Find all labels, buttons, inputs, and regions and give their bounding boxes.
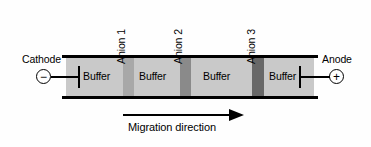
cathode-sign: − <box>37 70 50 83</box>
anion-band-3 <box>252 58 264 98</box>
cathode-label: Cathode <box>22 53 61 65</box>
buffer-label-1: Buffer <box>83 70 110 82</box>
buffer-label-3: Buffer <box>203 70 230 82</box>
anion-label-1: Anion 1 <box>115 29 127 64</box>
cathode-wire <box>51 76 80 78</box>
arrow-right-icon <box>123 114 231 116</box>
minus-circle-icon: − <box>36 69 51 84</box>
anode-electrode-plate <box>299 66 301 88</box>
buffer-label-4: Buffer <box>269 70 296 82</box>
gel-rail-bottom <box>62 96 318 99</box>
anion-label-3: Anion 3 <box>245 29 257 64</box>
anion-band-2 <box>180 58 191 98</box>
electrophoresis-diagram: Buffer Buffer Buffer Buffer Anion 1 Anio… <box>0 0 371 147</box>
arrow-head-icon <box>229 109 244 121</box>
cathode-electrode-plate <box>78 66 80 88</box>
gel-rail-top <box>62 55 318 58</box>
anion-label-2: Anion 2 <box>172 29 184 64</box>
buffer-label-2: Buffer <box>139 70 166 82</box>
anion-band-1 <box>123 58 134 98</box>
anode-wire <box>300 76 330 78</box>
plus-circle-icon: + <box>329 69 344 84</box>
anode-sign: + <box>330 70 343 83</box>
anode-label: Anode <box>322 53 352 65</box>
migration-direction-label: Migration direction <box>128 121 216 133</box>
